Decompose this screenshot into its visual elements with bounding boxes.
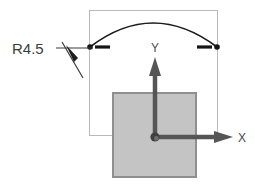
x-axis-arrowhead	[214, 131, 233, 143]
x-axis-label: X	[238, 131, 246, 145]
y-axis-arrowhead	[149, 57, 161, 76]
cad-drawing-svg: R4.5 Y X	[0, 0, 255, 189]
arc-endpoint-right-dot	[214, 44, 220, 50]
technical-drawing-canvas: R4.5 Y X	[0, 0, 255, 189]
origin-marker-highlight	[154, 136, 159, 141]
y-axis-label: Y	[151, 41, 159, 55]
arc-endpoint-left-dot	[87, 44, 93, 50]
radius-dimension-label: R4.5	[12, 40, 44, 57]
